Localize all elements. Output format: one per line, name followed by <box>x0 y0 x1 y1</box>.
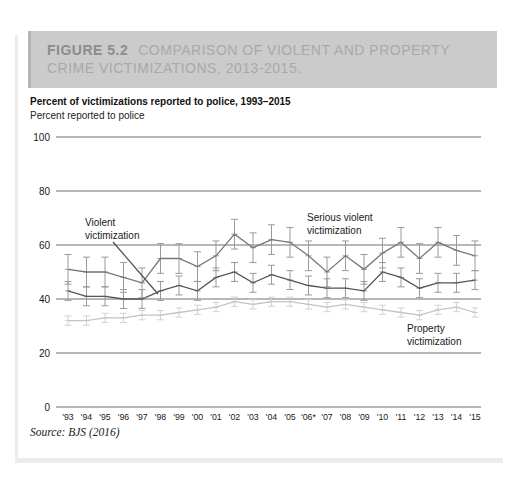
x-tick-label: '04 <box>266 412 278 422</box>
y-tick-label: 80 <box>39 186 51 197</box>
x-tick-label: '10 <box>377 412 389 422</box>
source-citation: Source: BJS (2016) <box>30 426 120 438</box>
violent-label-leader-line <box>113 242 158 294</box>
x-tick-label: '15 <box>469 412 481 422</box>
x-tick-label: '96 <box>118 412 130 422</box>
x-tick-label: '08 <box>340 412 352 422</box>
chart-title: Percent of victimizations reported to po… <box>30 96 291 107</box>
x-tick-label: '09 <box>358 412 370 422</box>
figure-number-label: FIGURE 5.2 <box>47 42 128 58</box>
x-tick-label: '06* <box>301 412 316 422</box>
x-tick-label: '07 <box>321 412 333 422</box>
y-tick-label: 0 <box>44 402 50 413</box>
x-tick-label: '95 <box>99 412 111 422</box>
y-tick-label: 100 <box>33 132 50 143</box>
figure-header-bar: FIGURE 5.2COMPARISON OF VIOLENT AND PROP… <box>28 31 497 88</box>
series-label-property-victimization: Propertyvictimization <box>407 323 461 347</box>
y-tick-label: 60 <box>39 240 51 251</box>
chart-y-axis-caption: Percent reported to police <box>30 110 145 121</box>
figure-panel: FIGURE 5.2COMPARISON OF VIOLENT AND PROP… <box>18 30 506 458</box>
line-chart: 020406080100'93'94'95'96'97'98'99'00'01'… <box>28 129 498 439</box>
x-tick-label: '97 <box>136 412 148 422</box>
x-tick-label: '03 <box>247 412 259 422</box>
y-tick-label: 20 <box>39 348 51 359</box>
series-label-violent-victimization: Violentvictimization <box>85 217 139 241</box>
x-tick-label: '94 <box>81 412 93 422</box>
x-tick-label: '98 <box>155 412 167 422</box>
x-tick-label: '12 <box>414 412 426 422</box>
x-tick-label: '01 <box>210 412 222 422</box>
x-tick-label: '14 <box>451 412 463 422</box>
x-tick-label: '00 <box>192 412 204 422</box>
line-chart-svg: 020406080100'93'94'95'96'97'98'99'00'01'… <box>28 129 498 439</box>
x-tick-label: '93 <box>62 412 74 422</box>
x-tick-label: '05 <box>284 412 296 422</box>
y-tick-label: 40 <box>39 294 51 305</box>
book-page-screenshot: FIGURE 5.2COMPARISON OF VIOLENT AND PROP… <box>0 0 524 482</box>
series-label-serious-violent-victimization: Serious violentvictimization <box>307 212 373 236</box>
x-tick-label: '99 <box>173 412 185 422</box>
x-tick-label: '11 <box>396 412 407 422</box>
x-tick-label: '13 <box>432 412 444 422</box>
x-tick-label: '02 <box>229 412 241 422</box>
